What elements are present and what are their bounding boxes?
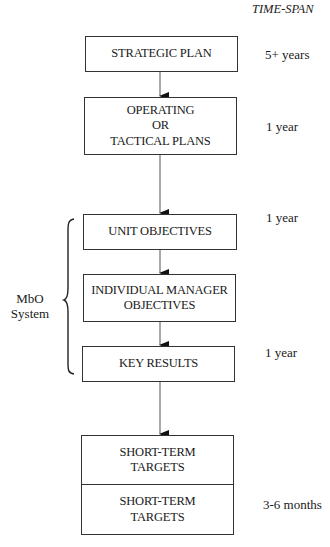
box-label-line-2: OR [152, 118, 169, 134]
box-strategic-plan: STRATEGIC PLAN [85, 36, 238, 72]
box-operating-tactical-plans: OPERATING OR TACTICAL PLANS [84, 97, 237, 155]
box-individual-manager-objectives: INDIVIDUAL MANAGER OBJECTIVES [83, 274, 236, 322]
box-key-results: KEY RESULTS [82, 346, 235, 382]
box-label-line-1: SHORT-TERM [120, 494, 196, 510]
box-label-line-3: TACTICAL PLANS [110, 134, 210, 150]
time-span-short-term-targets: 3-6 months [263, 497, 322, 513]
box-label: KEY RESULTS [119, 356, 198, 372]
time-span-key-results: 1 year [265, 345, 297, 361]
box-label-line-1: SHORT-TERM [120, 445, 196, 461]
box-label-line-1: INDIVIDUAL MANAGER [91, 283, 228, 299]
box-section-upper: SHORT-TERM TARGETS [82, 436, 233, 485]
time-span-strategic-plan: 5+ years [265, 47, 310, 63]
box-label-line-2: OBJECTIVES [124, 298, 196, 314]
mbo-label-line-1: MbO [8, 291, 52, 306]
box-label-line-2: TARGETS [131, 460, 185, 476]
time-span-unit-objectives: 1 year [266, 210, 298, 226]
mbo-label-line-2: System [8, 306, 52, 321]
box-label: STRATEGIC PLAN [111, 46, 211, 62]
box-section-lower: SHORT-TERM TARGETS [82, 485, 233, 534]
time-span-operating-plans: 1 year [266, 119, 298, 135]
box-label-line-2: TARGETS [131, 510, 185, 526]
time-span-header: TIME-SPAN [252, 2, 314, 17]
mbo-brace-icon [64, 219, 74, 374]
box-short-term-targets: SHORT-TERM TARGETS SHORT-TERM TARGETS [81, 435, 234, 535]
box-label: UNIT OBJECTIVES [108, 224, 211, 240]
mbo-system-label: MbO System [8, 291, 52, 321]
box-unit-objectives: UNIT OBJECTIVES [83, 214, 237, 250]
box-label-line-1: OPERATING [127, 103, 195, 119]
